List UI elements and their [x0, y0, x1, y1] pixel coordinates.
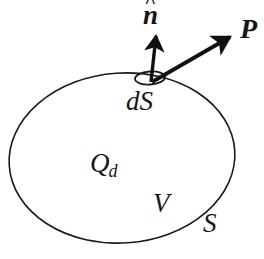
surface-element-label: dS	[126, 88, 153, 115]
enclosed-charge-subscript: d	[109, 161, 118, 181]
hat-accent-icon: ^	[144, 0, 156, 11]
diagram-canvas	[0, 0, 264, 259]
surface-integral-diagram: ^ n P dS Qd V S	[0, 0, 264, 259]
polarization-vector-arrow	[152, 37, 230, 82]
surface-label: S	[203, 210, 217, 237]
polarization-vector-label: P	[240, 15, 257, 43]
enclosed-charge-letter: Q	[90, 148, 110, 178]
normal-vector-label: ^ n	[143, 2, 158, 29]
enclosed-charge-label: Qd	[90, 150, 118, 180]
volume-label: V	[153, 190, 170, 217]
